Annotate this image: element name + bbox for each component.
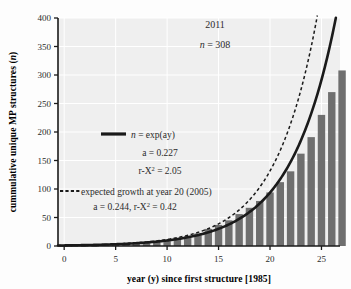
bar	[328, 92, 335, 246]
y-tick-label: 50	[42, 213, 52, 223]
bar	[266, 192, 273, 246]
y-axis-ticks: 050100150200250300350400	[38, 13, 59, 251]
year-annotation: 2011	[205, 19, 225, 30]
bar	[307, 137, 314, 246]
x-tick-label: 5	[113, 254, 118, 264]
y-tick-label: 150	[38, 156, 52, 166]
y-tick-label: 400	[38, 13, 52, 23]
bar	[338, 70, 345, 246]
x-axis-title: year (y) since first structure [1985]	[127, 274, 271, 285]
x-axis-ticks: 0510152025	[62, 246, 327, 264]
bar	[256, 201, 263, 246]
legend-solid-label: n = exp(ay)	[131, 130, 175, 141]
bar	[287, 171, 294, 246]
y-tick-label: 250	[38, 99, 52, 109]
x-tick-label: 20	[266, 254, 276, 264]
bar	[297, 154, 304, 246]
exponential-growth-chart: 050100150200250300350400 0510152025 cumm…	[0, 0, 351, 289]
y-tick-label: 0	[47, 241, 52, 251]
legend-dashed-label: expected growth at year 20 (2005)	[81, 187, 212, 198]
count-annotation: n = 308	[200, 39, 231, 50]
x-tick-label: 10	[163, 254, 173, 264]
legend-solid-a: a = 0.227	[142, 148, 178, 158]
legend-dashed-params: a = 0.244, r-X2 = 0.42	[93, 201, 177, 213]
chart-figure: 050100150200250300350400 0510152025 cumm…	[0, 0, 351, 289]
y-tick-label: 100	[38, 184, 52, 194]
x-tick-label: 0	[62, 254, 67, 264]
x-tick-label: 25	[317, 254, 327, 264]
y-tick-label: 350	[38, 42, 52, 52]
legend-solid-rchi2: r-X2 = 2.05	[139, 165, 182, 177]
y-axis-title: cummulative unique MP structures (n)	[8, 52, 19, 213]
x-tick-label: 15	[214, 254, 224, 264]
bar	[277, 182, 284, 246]
y-tick-label: 300	[38, 70, 52, 80]
y-tick-label: 200	[38, 127, 52, 137]
bar	[318, 115, 325, 246]
